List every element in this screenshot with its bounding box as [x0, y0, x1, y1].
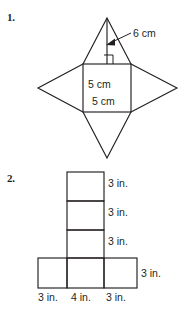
bottom-cell-middle [67, 258, 104, 288]
worksheet-page: 1. 6 cm 5 cm 5 cm 2. [0, 0, 186, 323]
right-label-3: 3 in. [108, 235, 128, 247]
bottom-cell-left [38, 258, 67, 288]
column-cell-2 [67, 201, 104, 230]
base-label-1: 5 cm [88, 78, 111, 90]
bottom-label-3: 3 in. [106, 291, 126, 303]
right-label-4: 3 in. [141, 267, 161, 279]
problem-2: 2. 3 in. 3 in. 3 in. 3 in. 3 in. 4 in. 3… [0, 161, 186, 323]
bottom-triangle-flap [83, 112, 131, 158]
slant-height-label: 6 cm [133, 27, 156, 39]
problem-1: 1. 6 cm 5 cm 5 cm [0, 0, 186, 161]
right-angle-mark [104, 55, 113, 64]
rectangular-prism-net-figure [0, 161, 186, 323]
bottom-label-1: 3 in. [38, 291, 58, 303]
base-label-2: 5 cm [92, 95, 115, 107]
column-cell-3 [67, 230, 104, 258]
right-triangle-flap [131, 64, 177, 112]
column-cell-1 [67, 172, 104, 201]
bottom-cell-right [104, 258, 137, 288]
bottom-label-2: 4 in. [71, 291, 91, 303]
right-label-2: 3 in. [108, 206, 128, 218]
left-triangle-flap [38, 64, 83, 112]
right-label-1: 3 in. [108, 177, 128, 189]
